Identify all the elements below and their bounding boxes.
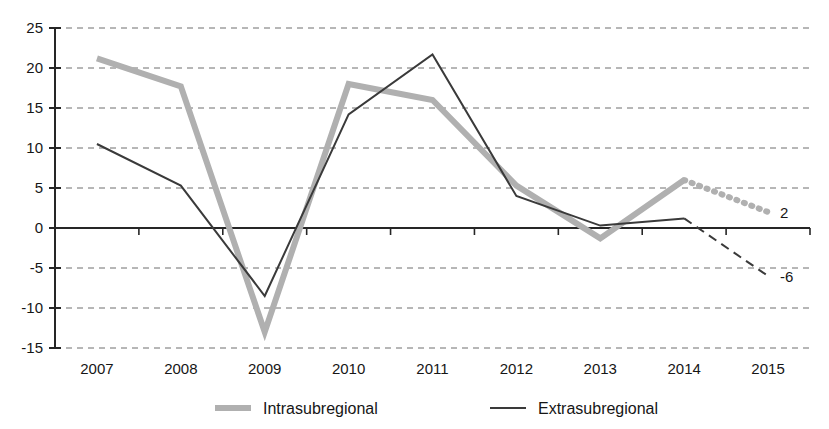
line-chart: 2520151050-5-10-15 200720082009201020112… [0, 0, 829, 429]
x-tick-label-2009: 2009 [248, 360, 281, 377]
y-axis-tick-labels: 2520151050-5-10-15 [21, 19, 43, 356]
x-axis-tick-labels: 200720082009201020112012201320142015 [80, 360, 784, 377]
y-tick-label-10: 10 [26, 139, 43, 156]
data-series-layer [97, 54, 768, 332]
data-label-intrasubregional: 2 [780, 204, 788, 221]
x-tick-label-2007: 2007 [80, 360, 113, 377]
x-tick-label-2010: 2010 [332, 360, 365, 377]
legend-label-extrasubregional: Extrasubregional [538, 400, 658, 417]
y-tick-label--5: -5 [30, 259, 43, 276]
x-tick-label-2014: 2014 [667, 360, 700, 377]
x-tick-label-2008: 2008 [164, 360, 197, 377]
chart-canvas: 2520151050-5-10-15 200720082009201020112… [0, 0, 829, 429]
x-tick-label-2013: 2013 [584, 360, 617, 377]
y-tick-label-20: 20 [26, 59, 43, 76]
y-tick-label--10: -10 [21, 299, 43, 316]
y-tick-label-0: 0 [35, 219, 43, 236]
y-tick-label-15: 15 [26, 99, 43, 116]
gridlines [55, 28, 810, 348]
data-label-extrasubregional: -6 [780, 268, 793, 285]
y-tick-label--15: -15 [21, 339, 43, 356]
series-forecast-intrasubregional [684, 180, 768, 212]
data-label-layer: 2-6 [780, 204, 793, 285]
chart-legend: IntrasubregionalExtrasubregional [215, 400, 658, 417]
y-tick-label-5: 5 [35, 179, 43, 196]
x-tick-label-2011: 2011 [416, 360, 448, 377]
legend-label-intrasubregional: Intrasubregional [263, 400, 378, 417]
y-tick-label-25: 25 [26, 19, 43, 36]
series-line-intrasubregional [97, 58, 684, 332]
x-tick-label-2012: 2012 [500, 360, 533, 377]
x-tick-label-2015: 2015 [751, 360, 784, 377]
